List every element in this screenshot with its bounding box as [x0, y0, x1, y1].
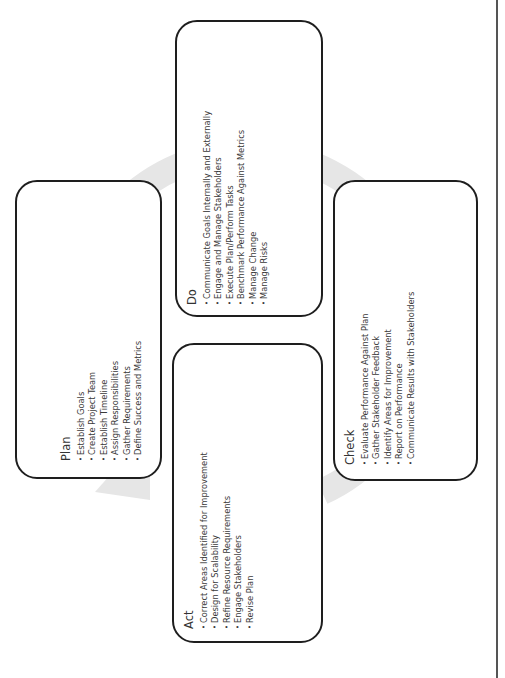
list-item: •Engage Stakeholders [233, 345, 244, 629]
list-item: •Refine Resource Requirements [222, 345, 233, 629]
list-item: •Gather Requirements [122, 182, 133, 461]
list-item: •Establish Goals [76, 182, 87, 461]
list-item: •Communicate Goals Internally and Extern… [202, 22, 213, 305]
bullet-icon: • [76, 457, 87, 461]
bullet-icon: • [233, 625, 244, 629]
list-item: •Correct Areas Identified for Improvemen… [199, 345, 210, 629]
list-item: •Gather Stakeholder Feedback [371, 182, 382, 465]
plan-title: Plan [59, 182, 73, 461]
bullet-icon: • [210, 625, 221, 629]
bullet-icon: • [248, 301, 259, 305]
bullet-icon: • [199, 625, 210, 629]
do-content: Do •Communicate Goals Internally and Ext… [177, 22, 325, 319]
list-item: •Benchmark Performance Against Metrics [236, 22, 247, 305]
list-item: •Identify Areas for Improvement [383, 182, 394, 465]
list-item: •Revise Plan [245, 345, 256, 629]
list-item: •Execute Plan/Perform Tasks [225, 22, 236, 305]
bullet-icon: • [383, 461, 394, 465]
bullet-icon: • [202, 301, 213, 305]
check-list: •Evaluate Performance Against Plan •Gath… [360, 182, 417, 465]
bullet-icon: • [222, 625, 233, 629]
check-content: Check •Evaluate Performance Against Plan… [335, 182, 480, 483]
do-title: Do [185, 22, 199, 305]
page-edge-rule [496, 0, 498, 678]
bullet-icon: • [110, 457, 121, 461]
bullet-icon: • [406, 461, 417, 465]
list-item: •Engage and Manage Stakeholders [213, 22, 224, 305]
list-item: •Establish Timeline [99, 182, 110, 461]
bullet-icon: • [394, 461, 405, 465]
bullet-icon: • [371, 461, 382, 465]
bullet-icon: • [213, 301, 224, 305]
bullet-icon: • [133, 457, 144, 461]
bullet-icon: • [259, 301, 270, 305]
plan-list: •Establish Goals •Create Project Team •E… [76, 182, 144, 461]
list-item: •Communicate Results with Stakeholders [406, 182, 417, 465]
list-item: •Define Success and Metrics [133, 182, 144, 461]
bullet-icon: • [360, 461, 371, 465]
bullet-icon: • [99, 457, 110, 461]
list-item: •Create Project Team [87, 182, 98, 461]
plan-box: Plan •Establish Goals •Create Project Te… [15, 180, 162, 479]
list-item: •Design for Scalability [210, 345, 221, 629]
act-content: Act •Correct Areas Identified for Improv… [174, 345, 325, 645]
list-item: •Report on Performance [394, 182, 405, 465]
list-item: •Evaluate Performance Against Plan [360, 182, 371, 465]
bullet-icon: • [236, 301, 247, 305]
plan-content: Plan •Establish Goals •Create Project Te… [17, 182, 164, 481]
check-title: Check [343, 182, 357, 465]
bullet-icon: • [87, 457, 98, 461]
bullet-icon: • [122, 457, 133, 461]
do-list: •Communicate Goals Internally and Extern… [202, 22, 270, 305]
do-box: Do •Communicate Goals Internally and Ext… [175, 20, 323, 317]
bullet-icon: • [225, 301, 236, 305]
bullet-icon: • [245, 625, 256, 629]
act-list: •Correct Areas Identified for Improvemen… [199, 345, 256, 629]
list-item: •Manage Change [248, 22, 259, 305]
check-box: Check •Evaluate Performance Against Plan… [333, 180, 478, 481]
act-box: Act •Correct Areas Identified for Improv… [172, 343, 323, 643]
act-title: Act [182, 345, 196, 629]
list-item: •Manage Risks [259, 22, 270, 305]
list-item: •Assign Responsibilities [110, 182, 121, 461]
